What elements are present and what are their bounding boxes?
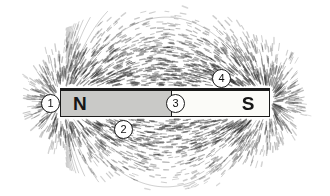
north-pole-label: N bbox=[73, 94, 87, 113]
callout-label-3: 3 bbox=[172, 98, 178, 109]
magnet-south-half: S bbox=[172, 88, 270, 117]
callout-label-1: 1 bbox=[47, 98, 53, 109]
magnetic-field-figure: N S 1 2 3 4 bbox=[0, 0, 330, 196]
callout-label-4: 4 bbox=[218, 73, 224, 84]
callout-marker-2[interactable]: 2 bbox=[114, 120, 133, 139]
callout-label-2: 2 bbox=[120, 124, 126, 135]
callout-marker-4[interactable]: 4 bbox=[212, 69, 231, 88]
callout-marker-3[interactable]: 3 bbox=[166, 94, 185, 113]
south-pole-label: S bbox=[242, 94, 255, 113]
callout-marker-1[interactable]: 1 bbox=[41, 94, 60, 113]
magnet-north-half: N bbox=[60, 88, 172, 117]
